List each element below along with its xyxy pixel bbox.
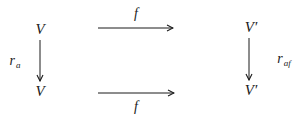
node-bottom-right: V′ bbox=[245, 83, 257, 98]
bottom-arrow-label: f bbox=[134, 100, 138, 114]
left-arrow-label: ra bbox=[10, 54, 21, 70]
right-arrow-label-base: r bbox=[277, 51, 282, 66]
top-arrow-label: f bbox=[134, 7, 138, 21]
right-arrow-label-subscript: af bbox=[284, 58, 291, 68]
node-bottom-left: V bbox=[35, 84, 44, 99]
left-arrow-label-subscript: a bbox=[16, 60, 21, 70]
right-arrow-label: raf bbox=[277, 52, 290, 68]
node-top-left: V bbox=[35, 22, 44, 37]
left-arrow-label-base: r bbox=[10, 53, 15, 68]
node-top-right: V′ bbox=[245, 20, 257, 35]
